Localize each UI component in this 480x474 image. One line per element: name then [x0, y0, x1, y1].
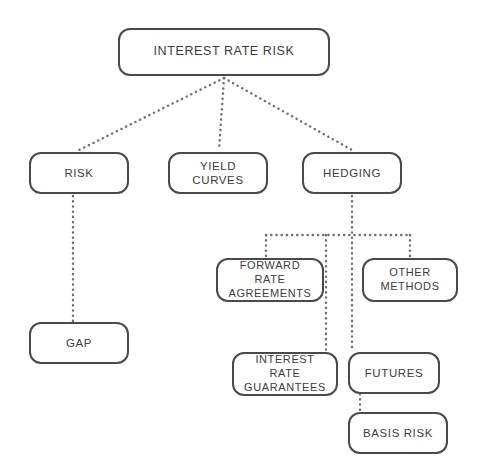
node-label-interest-rate-risk: INTEREST RATE RISK	[148, 44, 301, 60]
node-basis-risk[interactable]: BASIS RISK	[348, 412, 448, 454]
node-forward-rate-agreements[interactable]: FORWARD RATE AGREEMENTS	[216, 258, 324, 302]
node-label-hedging: HEDGING	[317, 166, 387, 180]
node-label-futures: FUTURES	[359, 366, 430, 380]
node-gap[interactable]: GAP	[29, 322, 129, 364]
node-label-other-methods: OTHER METHODS	[374, 266, 445, 294]
node-label-forward-rate-agreements: FORWARD RATE AGREEMENTS	[218, 259, 322, 300]
node-hedging[interactable]: HEDGING	[302, 152, 402, 194]
node-label-interest-rate-guarantees: INTEREST RATE GUARANTEES	[234, 353, 336, 394]
connector-root-to-risk	[79, 78, 224, 150]
node-futures[interactable]: FUTURES	[348, 352, 440, 394]
connector-root-to-hedging	[224, 78, 352, 150]
node-label-risk: RISK	[58, 166, 99, 180]
node-other-methods[interactable]: OTHER METHODS	[362, 258, 458, 302]
node-label-basis-risk: BASIS RISK	[357, 426, 439, 440]
connector-root-to-yield-curves	[219, 78, 224, 150]
diagram-canvas: INTEREST RATE RISK RISK YIELD CURVES HED…	[0, 0, 480, 474]
node-interest-rate-guarantees[interactable]: INTEREST RATE GUARANTEES	[232, 352, 338, 396]
node-risk[interactable]: RISK	[29, 152, 129, 194]
node-label-gap: GAP	[60, 336, 98, 350]
node-label-yield-curves: YIELD CURVES	[170, 159, 266, 188]
node-yield-curves[interactable]: YIELD CURVES	[168, 152, 268, 194]
node-interest-rate-risk[interactable]: INTEREST RATE RISK	[118, 28, 330, 76]
